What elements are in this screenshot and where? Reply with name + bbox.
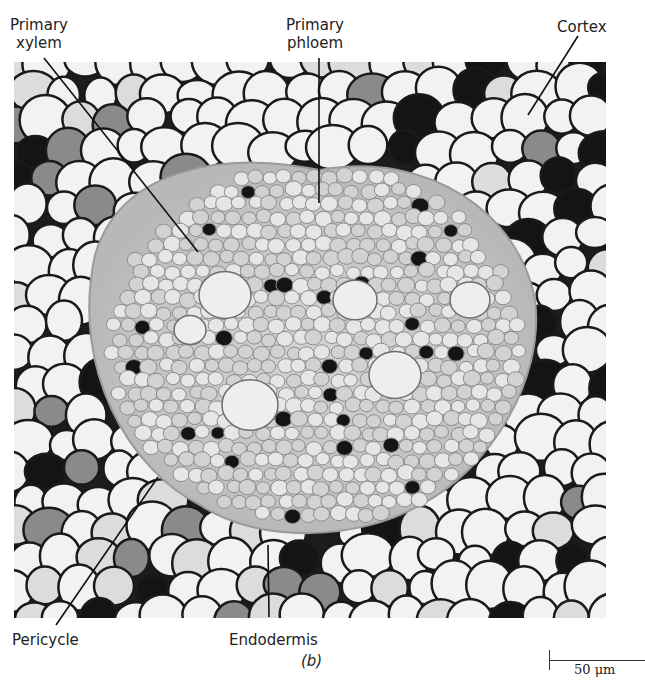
scale-bar-label: 50 μm [574,662,615,677]
label-cortex-text: Cortex [557,18,607,36]
root-cross-section-figure: Primary xylem Primary phloem Cortex Peri… [0,0,645,690]
micrograph-cells [14,62,606,618]
label-primary-phloem-line2: phloem [286,34,344,52]
label-cortex: Cortex [557,18,607,36]
panel-label: (b) [301,652,322,670]
label-endodermis-text: Endodermis [229,631,318,649]
label-pericycle-text: Pericycle [12,631,79,649]
label-primary-phloem-line1: Primary [286,16,344,34]
label-endodermis: Endodermis [229,631,318,649]
scale-bar: 50 μm [549,649,645,689]
label-primary-xylem-line1: Primary [10,16,68,34]
label-primary-xylem: Primary xylem [10,16,68,52]
label-primary-xylem-line2: xylem [10,34,68,52]
micrograph-image [14,62,606,618]
scale-bar-line [549,660,645,661]
label-primary-phloem: Primary phloem [286,16,344,52]
label-pericycle: Pericycle [12,631,79,649]
